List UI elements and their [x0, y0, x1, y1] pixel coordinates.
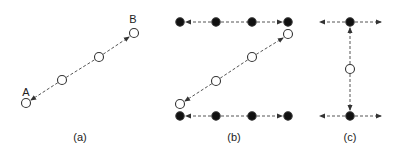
filled-node-icon: [248, 112, 256, 120]
open-node-icon: [284, 30, 293, 39]
filled-node-icon: [346, 112, 354, 120]
filled-node-icon: [346, 18, 354, 26]
filled-node-icon: [176, 18, 184, 26]
filled-node-icon: [176, 112, 184, 120]
dashed-arrow: [252, 38, 283, 57]
open-node-icon: [58, 76, 67, 85]
open-node-icon: [22, 99, 31, 108]
point-label-b: B: [129, 13, 136, 25]
open-node-icon: [212, 77, 221, 86]
filled-node-icon: [284, 112, 292, 120]
dashed-line: [216, 57, 252, 81]
filled-node-icon: [212, 18, 220, 26]
open-node-icon: [346, 65, 355, 74]
caption-c: (c): [344, 131, 357, 143]
caption-a: (a): [73, 131, 86, 143]
panel-a-diagonal-path: [22, 29, 139, 108]
dashed-line: [62, 57, 99, 80]
dashed-arrow: [99, 37, 129, 57]
panel-c-vertical-path: [320, 18, 381, 120]
filled-node-icon: [284, 18, 292, 26]
open-node-icon: [130, 29, 139, 38]
open-node-icon: [95, 53, 104, 62]
open-node-icon: [248, 53, 257, 62]
filled-node-icon: [212, 112, 220, 120]
filled-node-icon: [248, 18, 256, 26]
dashed-arrow: [185, 81, 216, 101]
open-node-icon: [176, 100, 185, 109]
dashed-arrow: [31, 80, 62, 100]
caption-b: (b): [227, 131, 240, 143]
point-label-a: A: [22, 86, 29, 98]
panel-b-z-path: [176, 18, 293, 120]
diagram-canvas: [0, 0, 401, 157]
